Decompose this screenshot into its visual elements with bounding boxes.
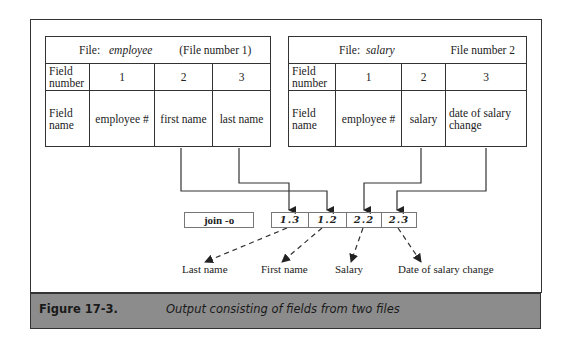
output-field-box: 1.3 (271, 212, 309, 228)
output-field-box: 2.2 (346, 212, 382, 228)
output-field-box: 2.3 (381, 212, 417, 228)
figure-caption: Figure 17-3. Output consisting of fields… (30, 292, 541, 329)
figure-number: Figure 17-3. (39, 302, 118, 316)
output-label-last-name: Last name (182, 263, 228, 275)
output-label-salary: Salary (335, 263, 363, 275)
output-field-box: 1.2 (308, 212, 347, 228)
join-command-box: join -o (184, 212, 254, 228)
output-label-first-name: First name (261, 263, 308, 275)
output-label-date: Date of salary change (398, 263, 494, 275)
figure-caption-text: Output consisting of fields from two fil… (166, 302, 400, 316)
